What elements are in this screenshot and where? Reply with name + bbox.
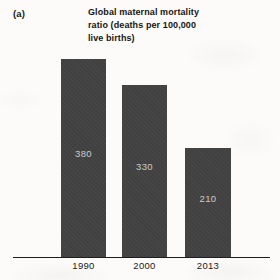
bar-value-label: 330 [122, 161, 167, 172]
bar-value-label: 380 [61, 148, 106, 159]
bar-1990: 380 [61, 59, 106, 257]
bar-value-label: 210 [185, 193, 231, 204]
scanned-page: (a) Global maternal mortality ratio (dea… [0, 0, 280, 280]
bar-2000: 330 [122, 85, 167, 257]
bar-chart: 380199033020002102013 [0, 0, 280, 280]
x-tick-label: 1990 [72, 260, 94, 271]
x-tick-label: 2000 [133, 260, 155, 271]
x-tick-label: 2013 [197, 260, 219, 271]
bar-2013: 210 [185, 148, 231, 257]
